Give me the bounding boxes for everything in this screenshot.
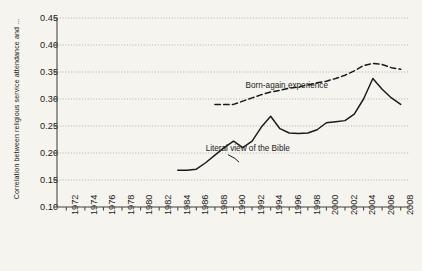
chart-container: Correlation between religious service at… — [0, 0, 422, 271]
series-line-literal-view-of-the-bible — [178, 78, 401, 170]
annotation-label: Literal view of the Bible — [206, 144, 290, 153]
plot-area — [0, 0, 422, 271]
annotation-label: Born-again experience — [246, 81, 328, 90]
annotation-leader-line — [228, 155, 239, 163]
